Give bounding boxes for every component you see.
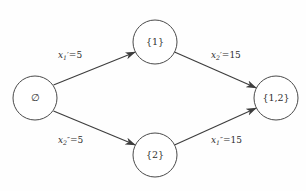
graph-svg: ∅ {1} {2} {1,2} [0, 0, 306, 191]
edge-label-value: 5 [76, 50, 82, 60]
edge-label-value: 15 [229, 50, 240, 60]
node-label-empty-set: ∅ [31, 92, 40, 103]
edge-label-eq: = [70, 135, 78, 145]
edge-label-value: 5 [78, 135, 84, 145]
edge-label-empty-to-two: x2″=5 [58, 136, 83, 146]
diagram-canvas: ∅ {1} {2} {1,2} x1′=5 x2′=15 x2″=5 x1″=1… [0, 0, 306, 191]
edge-label-two-to-onetwo: x1″=15 [211, 136, 242, 146]
edge-label-one-to-onetwo: x2′=15 [211, 51, 241, 61]
node-label-set-two: {2} [146, 149, 164, 160]
edge-label-eq: = [223, 135, 231, 145]
edge-label-value: 15 [231, 135, 242, 145]
edge-label-empty-to-one: x1′=5 [58, 51, 82, 61]
node-label-set-one: {1} [146, 36, 164, 47]
node-label-set-one-two: {1,2} [262, 92, 289, 103]
edge-group [54, 52, 257, 145]
